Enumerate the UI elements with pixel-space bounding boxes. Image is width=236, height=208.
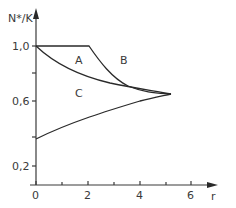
x-tick-label-0: 0 [32,189,39,202]
x-tick-label-6: 6 [187,189,194,202]
upper-boundary-curve [36,46,171,94]
x-axis-label: r [211,190,216,203]
y-tick-label-1-0: 1,0 [12,40,30,53]
lower-boundary-curve [36,94,171,139]
chart: N*/K r 1,0 0,6 0,2 0 2 4 6 A B C [0,0,236,208]
y-tick-label-0-2: 0,2 [12,160,30,173]
y-axis-label: N*/K [8,12,33,25]
region-label-c: C [75,87,83,100]
x-tick-label-4: 4 [136,189,143,202]
middle-boundary-curve [36,46,171,94]
x-tick-label-2: 2 [84,189,91,202]
region-label-a: A [75,54,83,67]
x-axis-arrow-icon [207,182,218,188]
region-label-b: B [120,54,128,67]
y-axis-arrow-icon [33,8,39,19]
y-tick-label-0-6: 0,6 [12,95,30,108]
